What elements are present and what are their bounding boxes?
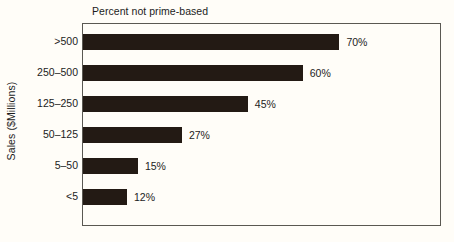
bar <box>83 158 138 174</box>
chart-title: Percent not prime-based <box>92 5 208 17</box>
bar-row: 70% <box>83 34 442 50</box>
bar-row: 27% <box>83 127 442 143</box>
bar <box>83 34 339 50</box>
bar-value-label: 15% <box>145 160 166 172</box>
plot-area: 70%60%45%27%15%12% <box>83 24 440 225</box>
bar <box>83 65 303 81</box>
plot-frame: 70%60%45%27%15%12% <box>82 23 441 226</box>
y-axis-tick-label: 50–125 <box>4 128 78 140</box>
bar-row: 12% <box>83 189 442 205</box>
bar <box>83 189 127 205</box>
y-axis-tick-label: 250–500 <box>4 66 78 78</box>
bar-value-label: 12% <box>134 191 155 203</box>
bar-value-label: 60% <box>310 67 331 79</box>
y-axis-tick-label: 5–50 <box>4 159 78 171</box>
bar-value-label: 45% <box>255 98 276 110</box>
bar-row: 15% <box>83 158 442 174</box>
bar <box>83 96 248 112</box>
bar-value-label: 27% <box>189 129 210 141</box>
y-axis-tick-label: >500 <box>4 35 78 47</box>
bar-row: 45% <box>83 96 442 112</box>
y-axis-tick-labels: >500250–500125–25050–1255–50<5 <box>0 23 78 226</box>
bar-row: 60% <box>83 65 442 81</box>
y-axis-tick-label: <5 <box>4 190 78 202</box>
bar-chart: Sales ($Millions) Percent not prime-base… <box>0 0 454 242</box>
bar <box>83 127 182 143</box>
bar-value-label: 70% <box>346 36 367 48</box>
y-axis-tick-label: 125–250 <box>4 97 78 109</box>
